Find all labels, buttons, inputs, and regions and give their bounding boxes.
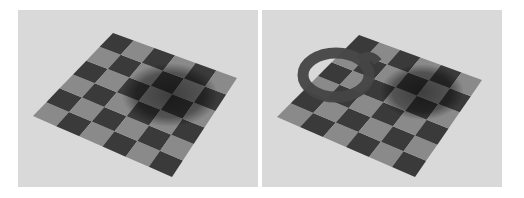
shadow-right [380,64,464,120]
checkerboard-scene [0,0,524,198]
shadow-left [122,63,218,127]
